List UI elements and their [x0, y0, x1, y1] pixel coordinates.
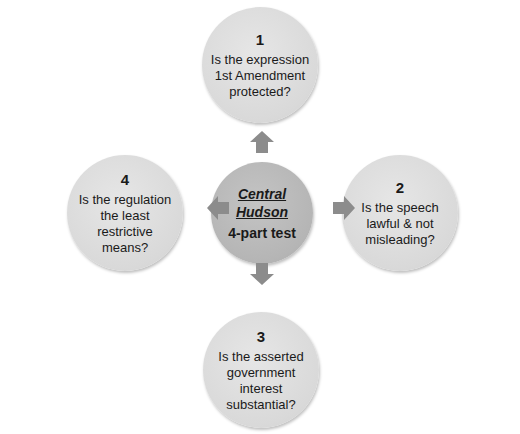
step-question-line: the least: [100, 208, 149, 224]
step-number: 2: [396, 179, 404, 196]
center-title-line: Central: [238, 185, 286, 203]
step-question-line: 1st Amendment: [215, 68, 305, 84]
arrow-right-icon: [333, 196, 355, 220]
step-1-circle: 1 Is the expression 1st Amendment protec…: [202, 7, 318, 123]
step-question-line: Is the regulation: [79, 192, 172, 208]
step-question-line: government: [227, 365, 296, 381]
arrow-up-icon: [250, 131, 274, 153]
center-subtitle: 4-part test: [228, 225, 296, 241]
step-question-line: lawful & not: [366, 216, 433, 232]
step-question-line: misleading?: [365, 232, 434, 248]
step-question-line: Is the expression: [211, 52, 309, 68]
step-3-circle: 3 Is the asserted government interest su…: [203, 312, 319, 428]
step-question-line: Is the asserted: [218, 349, 303, 365]
step-4-circle: 4 Is the regulation the least restrictiv…: [67, 155, 183, 271]
step-question-line: substantial?: [226, 397, 295, 413]
step-number: 3: [257, 328, 265, 345]
arrow-down-icon: [250, 263, 274, 285]
step-question-line: interest: [240, 381, 283, 397]
step-2-circle: 2 Is the speech lawful & not misleading?: [342, 155, 458, 271]
center-title-line: Hudson: [236, 203, 288, 221]
step-number: 1: [256, 31, 264, 48]
step-question-line: Is the speech: [361, 200, 438, 216]
step-question-line: restrictive: [97, 224, 153, 240]
step-question-line: means?: [102, 240, 148, 256]
step-question-line: protected?: [229, 84, 290, 100]
arrow-left-icon: [207, 196, 229, 220]
step-number: 4: [121, 171, 129, 188]
